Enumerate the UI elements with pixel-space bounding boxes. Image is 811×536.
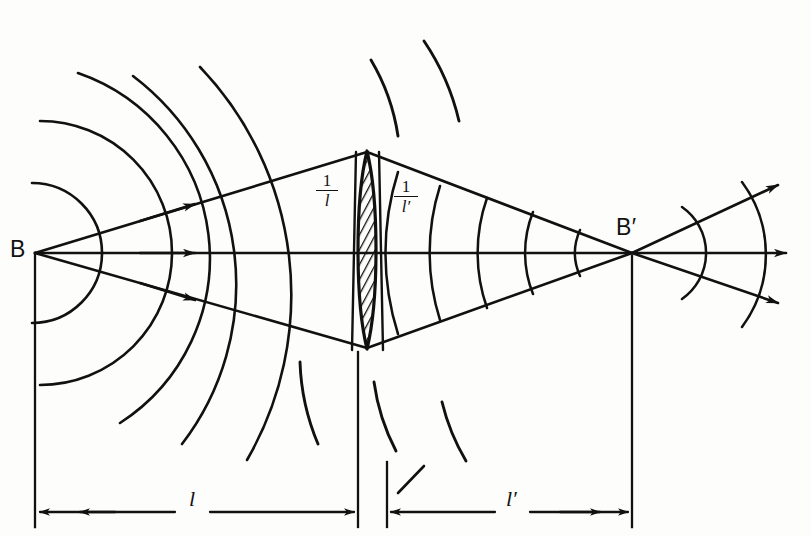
object-vergence-denominator: l bbox=[315, 191, 339, 209]
object-distance-label: l bbox=[189, 486, 195, 512]
image-vergence-numerator: 1 bbox=[393, 178, 419, 196]
object-vergence-fraction: 1 l bbox=[315, 172, 339, 209]
diagram-canvas bbox=[0, 0, 811, 536]
image-distance-label: l′ bbox=[506, 486, 517, 512]
image-point-label: B′ bbox=[616, 214, 637, 241]
image-vergence-denominator: l′ bbox=[393, 197, 419, 215]
dimension-extension-lines bbox=[35, 253, 632, 527]
stray-tick-mark bbox=[398, 466, 424, 493]
object-vergence-numerator: 1 bbox=[315, 172, 339, 190]
image-vergence-fraction: 1 l′ bbox=[393, 178, 419, 215]
object-point-label: B bbox=[10, 236, 26, 263]
diverging-wavefronts-beyond-image bbox=[682, 182, 766, 327]
biconvex-lens bbox=[358, 151, 376, 349]
optics-wavefront-diagram: B B′ l l′ 1 l 1 l′ bbox=[0, 0, 811, 536]
detached-wavefronts bbox=[300, 41, 466, 461]
